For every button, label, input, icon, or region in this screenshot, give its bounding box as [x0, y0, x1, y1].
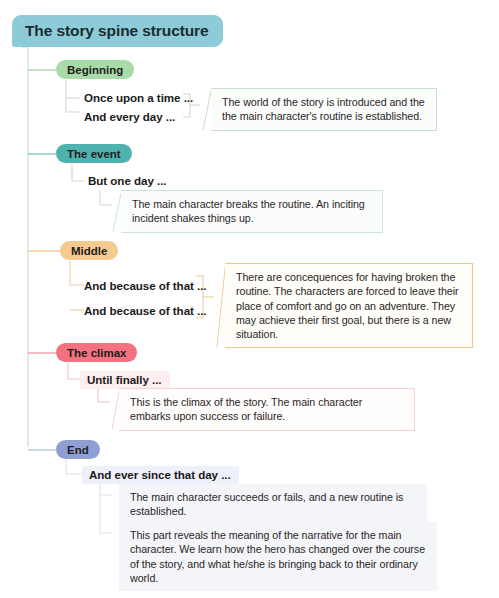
- root-node[interactable]: The story spine structure: [12, 15, 223, 47]
- beat-and-ever-since-that-day[interactable]: And ever since that day ...: [82, 466, 239, 484]
- note-beginning-wrap: The world of the story is introduced and…: [211, 88, 437, 131]
- beat-and-because-of-that-2[interactable]: And because of that ...: [84, 304, 207, 317]
- beat-and-every-day[interactable]: And every day ...: [84, 110, 175, 123]
- beat-but-one-day[interactable]: But one day ...: [88, 174, 166, 187]
- beat-until-finally[interactable]: Until finally ...: [80, 371, 170, 389]
- stage-pill-end[interactable]: End: [56, 440, 100, 459]
- beat-once-upon-a-time[interactable]: Once upon a time ...: [84, 91, 193, 104]
- stage-pill-the-climax[interactable]: The climax: [56, 343, 137, 362]
- note-middle: There are concequences for having broken…: [225, 263, 473, 348]
- note-end-2: This part reveals the meaning of the nar…: [119, 522, 437, 591]
- stage-pill-middle[interactable]: Middle: [60, 241, 118, 260]
- note-the-climax-wrap: This is the climax of the story. The mai…: [119, 388, 415, 431]
- note-the-event: The main character breaks the routine. A…: [121, 190, 383, 233]
- note-the-climax: This is the climax of the story. The mai…: [119, 388, 415, 431]
- note-end-1: The main character succeeds or fails, an…: [119, 484, 427, 525]
- mindmap-canvas: The story spine structure Beginning Once…: [0, 0, 499, 598]
- note-the-event-wrap: The main character breaks the routine. A…: [121, 190, 383, 233]
- note-beginning: The world of the story is introduced and…: [211, 88, 437, 131]
- beat-and-because-of-that-1[interactable]: And because of that ...: [84, 279, 207, 292]
- stage-pill-the-event[interactable]: The event: [56, 144, 132, 163]
- stage-pill-beginning[interactable]: Beginning: [56, 60, 134, 79]
- note-middle-wrap: There are concequences for having broken…: [225, 263, 473, 348]
